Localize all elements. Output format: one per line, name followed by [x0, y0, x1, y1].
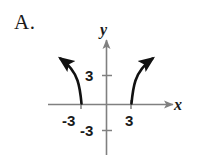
- coordinate-plot: x y -3 3 3 -3: [0, 0, 200, 157]
- x-axis-label: x: [173, 96, 182, 113]
- y-axis-label: y: [98, 21, 108, 39]
- math-figure: A. x y -3 3 3: [0, 0, 200, 157]
- curve-left-branch: [61, 59, 82, 104]
- y-tick-label-positive-3: 3: [85, 67, 93, 84]
- x-tick-label-positive-3: 3: [125, 112, 133, 129]
- x-tick-label-negative-3: -3: [62, 112, 75, 129]
- y-tick-label-negative-3: -3: [80, 122, 93, 139]
- curve-right-branch: [132, 59, 153, 104]
